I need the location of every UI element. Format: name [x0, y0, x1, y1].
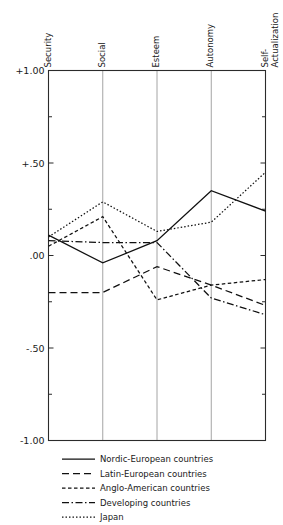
x-axis-label-social: Social — [97, 42, 107, 67]
chart-container: SecuritySocialEsteemAutonomySelf-Actuali… — [0, 0, 283, 525]
y-axis-tick-labels: +1.00+.50.00-.50-1.00 — [15, 65, 44, 446]
y-tick-label: +.50 — [21, 158, 44, 169]
legend-label-anglo-american-countries: Anglo-American countries — [100, 483, 210, 493]
y-tick-label: -.50 — [26, 343, 45, 354]
y-tick-label: +1.00 — [15, 65, 44, 76]
y-tick-label: -1.00 — [20, 435, 45, 446]
legend-label-developing-countries: Developing countries — [100, 498, 191, 508]
chart-legend: Nordic-European countriesLatin-European … — [62, 454, 214, 522]
y-tick-label: .00 — [29, 250, 44, 261]
x-axis-label-self-actualization: Self- — [260, 49, 270, 68]
needs-satisfaction-line-chart: SecuritySocialEsteemAutonomySelf-Actuali… — [0, 0, 283, 525]
x-axis-label-self-actualization: Actualization — [270, 13, 280, 68]
legend-label-nordic-european-countries: Nordic-European countries — [100, 454, 214, 464]
x-axis-label-esteem: Esteem — [151, 36, 161, 68]
x-axis-category-labels: SecuritySocialEsteemAutonomySelf-Actuali… — [43, 13, 281, 68]
legend-label-japan: Japan — [99, 512, 124, 522]
legend-label-latin-european-countries: Latin-European countries — [100, 469, 207, 479]
vertical-gridlines — [103, 71, 212, 441]
x-axis-label-security: Security — [43, 33, 53, 68]
x-axis-label-autonomy: Autonomy — [205, 24, 215, 68]
